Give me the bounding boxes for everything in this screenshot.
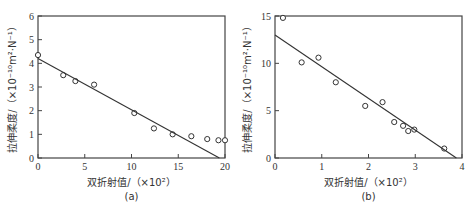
y-tick-label: 2	[29, 105, 34, 116]
data-point	[35, 52, 40, 57]
data-point	[380, 100, 385, 105]
y-tick-label: 5	[266, 105, 271, 116]
x-tick-label: 3	[413, 161, 418, 172]
data-point	[400, 123, 405, 128]
data-point	[222, 138, 227, 143]
y-tick-label: 6	[29, 11, 34, 22]
plot-frame	[38, 16, 225, 158]
figure: 051015200123456双折射值/（×10²）(a)拉伸柔度/（×10⁻¹…	[0, 0, 472, 210]
x-tick-label: 0	[273, 161, 278, 172]
y-axis-label: 拉伸柔度/（×10⁻¹⁰m²·N⁻¹）	[241, 21, 253, 152]
chart-b: 01234051015双折射值/（×10²）(b)拉伸柔度/（×10⁻¹⁰m²·…	[241, 11, 465, 203]
x-tick-label: 10	[127, 161, 137, 172]
data-point	[333, 80, 338, 85]
y-tick-label: 4	[29, 58, 34, 69]
data-point	[151, 126, 156, 131]
x-tick-label: 1	[319, 161, 324, 172]
data-point	[92, 82, 97, 87]
y-axis-label: 拉伸柔度/（×10⁻¹⁰m²·N⁻¹）	[6, 21, 18, 152]
y-tick-label: 10	[261, 58, 271, 69]
x-axis-label: 双折射值/（×10²）	[87, 176, 175, 188]
x-tick-label: 20	[220, 161, 230, 172]
chart-caption: (a)	[125, 191, 139, 202]
y-tick-label: 15	[261, 11, 271, 22]
data-point	[216, 138, 221, 143]
chart-caption: (b)	[361, 191, 375, 202]
x-tick-label: 2	[366, 161, 371, 172]
data-point	[406, 128, 411, 133]
x-tick-label: 5	[82, 161, 87, 172]
data-point	[205, 136, 210, 141]
plot-frame	[275, 16, 462, 158]
x-axis-label: 双折射值/（×10²）	[324, 176, 412, 188]
data-point	[316, 55, 321, 60]
y-tick-label: 0	[266, 153, 271, 164]
x-tick-label: 4	[460, 161, 465, 172]
data-point	[299, 60, 304, 65]
y-tick-label: 0	[29, 153, 34, 164]
x-tick-label: 15	[173, 161, 183, 172]
data-point	[189, 134, 194, 139]
x-tick-label: 0	[36, 161, 41, 172]
chart-a: 051015200123456双折射值/（×10²）(a)拉伸柔度/（×10⁻¹…	[6, 11, 230, 203]
fit-line	[275, 35, 456, 158]
data-point	[363, 103, 368, 108]
y-tick-label: 1	[29, 129, 34, 140]
fit-line	[38, 59, 219, 158]
y-tick-label: 5	[29, 34, 34, 45]
y-tick-label: 3	[29, 82, 34, 93]
data-point	[392, 119, 397, 124]
data-point	[280, 15, 285, 20]
